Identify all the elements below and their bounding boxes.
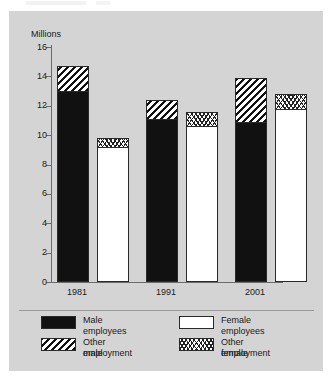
y-axis-title: Millions [31,29,61,39]
segment-other-female-1981 [98,139,128,148]
x-axis-line [51,282,283,283]
segment-male-employees-1991 [147,120,177,281]
legend-label-other-female-line2: employment [221,348,270,359]
x-axis-label-2001: 2001 [210,287,300,297]
legend-label-other-male-line2: employment [83,348,132,359]
segment-male-employees-1981 [58,92,88,281]
legend-swatch-other-male [41,338,76,351]
y-tick-label-14: 14 [17,72,47,81]
segment-other-female-1991 [187,113,217,128]
chart-legend: Male employees Female employees Other ma… [19,314,315,364]
legend-swatch-other-female [179,338,214,351]
segment-other-male-1991 [147,101,177,120]
segment-female-employees-1981 [98,148,128,281]
y-tick-label-4: 4 [17,219,47,228]
y-axis-line [51,45,52,283]
legend-swatch-male-employees [41,316,76,329]
bar-2001-male [235,78,267,282]
y-tick-label-2: 2 [17,248,47,257]
bar-1991-male [146,100,178,282]
x-axis-label-1991: 1991 [121,287,211,297]
y-tick-label-6: 6 [17,189,47,198]
segment-male-employees-2001 [236,123,266,281]
scan-smudge-right [96,1,110,5]
segment-female-employees-1991 [187,127,217,281]
y-tick-label-8: 8 [17,160,47,169]
scan-smudge-left [26,1,86,5]
chart-figure: Millions 16 14 12 10 8 6 4 2 0 1981 1991 [9,11,323,371]
legend-separator [19,310,314,311]
y-tick-label-10: 10 [17,131,47,140]
x-axis-label-1981: 1981 [32,287,122,297]
bar-1991-female [186,112,218,282]
legend-swatch-female-employees [179,316,214,329]
y-tick-label-16: 16 [17,43,47,52]
bar-1981-female [97,138,129,282]
segment-female-employees-2001 [276,110,306,281]
y-tick-label-12: 12 [17,101,47,110]
legend-label-female-employees: Female employees [221,315,265,337]
bar-1981-male [57,66,89,282]
segment-other-male-1981 [58,67,88,92]
y-tick-label-0: 0 [17,278,47,287]
bar-2001-female [275,94,307,282]
segment-other-female-2001 [276,95,306,110]
segment-other-male-2001 [236,79,266,123]
legend-label-male-employees: Male employees [83,315,127,337]
scan-artifact [0,0,332,9]
